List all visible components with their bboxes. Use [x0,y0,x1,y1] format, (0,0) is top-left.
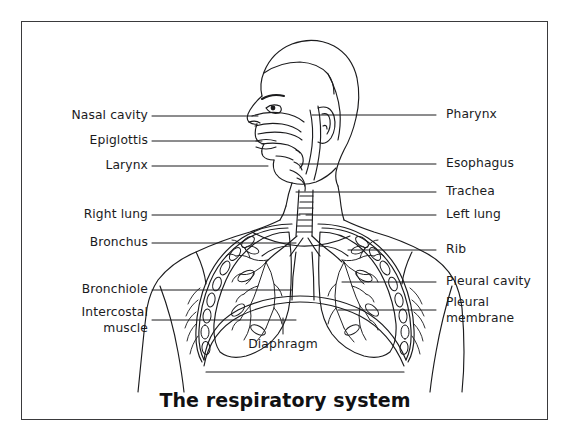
lower-lip [256,147,276,149]
mediastinum-left [292,252,296,300]
mediastinum-right [312,252,314,300]
label-pleural-cavity: Pleural cavity [446,274,531,290]
left-lung [319,232,396,357]
label-trachea: Trachea [446,184,495,200]
label-rib: Rib [446,242,466,258]
label-bronchus: Bronchus [0,235,148,251]
label-diaphragm: Diaphragm [248,337,318,353]
label-bronchiole: Bronchiole [0,282,148,298]
label-pharynx: Pharynx [446,107,497,123]
label-larynx: Larynx [0,158,148,174]
nasal-and-oral-cavity [252,112,304,160]
label-pleural-membrane: Pleural membrane [446,295,514,326]
label-esophagus: Esophagus [446,156,514,172]
trachea [296,190,313,236]
figure-title: The respiratory system [0,389,570,411]
bronchi [266,236,342,262]
label-intercostal-muscle: Intercostal muscle [0,305,148,336]
hairline [264,62,334,94]
label-epiglottis: Epiglottis [0,133,148,149]
label-nasal-cavity: Nasal cavity [0,108,148,124]
respiratory-system-figure: Nasal cavityEpiglottisLarynxRight lungBr… [0,0,570,442]
label-left-lung: Left lung [446,207,501,223]
torso-outline [138,220,464,392]
label-right-lung: Right lung [0,207,148,223]
eye [262,95,284,113]
